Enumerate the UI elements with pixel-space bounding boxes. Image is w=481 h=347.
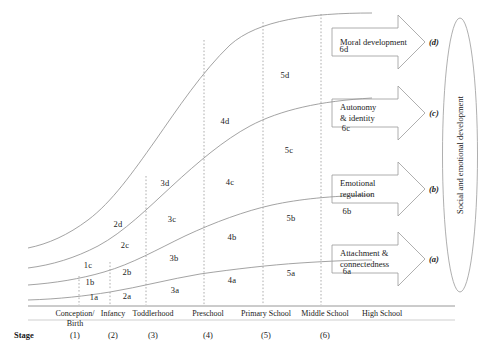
curve-a bbox=[28, 260, 372, 300]
region-label: 4a bbox=[228, 275, 236, 285]
stage-axis-title: Stage bbox=[14, 330, 34, 340]
axis-label-primary-school: Primary School bbox=[241, 309, 291, 319]
region-label: 2c bbox=[121, 240, 129, 250]
axis-label-infancy: Infancy bbox=[101, 309, 125, 319]
region-label: 2a bbox=[123, 291, 131, 301]
region-label: 2b bbox=[123, 267, 132, 277]
region-label: 5b bbox=[287, 213, 296, 223]
figure-canvas: 1a 2a 3a 4a 5a 6a 1b 2b 3b 4b 5b 6b 1c 2… bbox=[0, 0, 481, 347]
arrow-letter-c: (c) bbox=[429, 108, 438, 118]
region-label: 6c bbox=[342, 123, 350, 133]
arrow-letter-b: (b) bbox=[429, 184, 439, 194]
region-label: 4d bbox=[221, 116, 230, 126]
stage-number-4: (4) bbox=[203, 330, 213, 340]
curve-d bbox=[28, 13, 372, 248]
region-label: 3c bbox=[168, 214, 176, 224]
stage-number-3: (3) bbox=[148, 330, 158, 340]
region-label: 1b bbox=[86, 277, 95, 287]
axis-label-middle-school: Middle School bbox=[301, 309, 348, 319]
region-label: 4c bbox=[226, 177, 234, 187]
arrow-label-attachment-connectedness: Attachment & connectedness bbox=[340, 248, 389, 270]
stage-number-5: (5) bbox=[261, 330, 271, 340]
stage-number-1: (1) bbox=[70, 330, 80, 340]
axis-label-toddlerhood: Toddlerhood bbox=[133, 309, 174, 319]
arrow-label-autonomy-identity: Autonomy & identity bbox=[340, 102, 376, 124]
arrow-letter-d: (d) bbox=[429, 37, 439, 47]
curve-c bbox=[28, 98, 372, 268]
region-label: 5d bbox=[281, 70, 290, 80]
region-label: 4b bbox=[228, 232, 237, 242]
region-label: 5c bbox=[285, 145, 293, 155]
region-label: 3b bbox=[170, 253, 179, 263]
axis-label-conception-birth: Conception/ Birth bbox=[55, 309, 94, 328]
axis-label-preschool: Preschool bbox=[192, 309, 224, 319]
region-label: 6b bbox=[343, 206, 352, 216]
ellipse-label-social-emotional-development: Social and emotional development bbox=[455, 96, 465, 214]
stage-number-2: (2) bbox=[108, 330, 118, 340]
stage-number-6: (6) bbox=[320, 330, 330, 340]
curve-b bbox=[28, 195, 372, 285]
diagram-vector-layer bbox=[0, 0, 481, 347]
region-label: 3d bbox=[161, 178, 170, 188]
arrow-letter-a: (a) bbox=[429, 254, 439, 264]
region-label: 3a bbox=[171, 285, 179, 295]
region-label: 2d bbox=[114, 219, 123, 229]
axis-label-high-school: High School bbox=[362, 309, 402, 319]
arrow-label-moral-development: Moral development bbox=[340, 37, 407, 48]
region-label: 5a bbox=[287, 268, 295, 278]
region-label: 1a bbox=[90, 292, 98, 302]
arrow-label-emotional-regulation: Emotional regulation bbox=[340, 178, 375, 200]
region-label: 1c bbox=[84, 260, 92, 270]
